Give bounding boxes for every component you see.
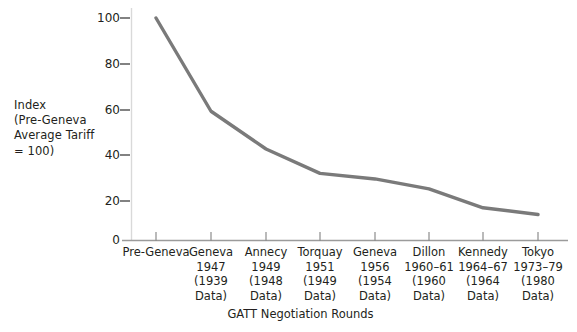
x-axis-title-text: GATT Negotiation Rounds [203, 307, 373, 321]
x-tick-name: Tokyo [502, 245, 574, 260]
x-tick-marks [156, 232, 538, 241]
y-tick-marks [120, 18, 130, 201]
x-tick-data-close: Data) [502, 289, 574, 304]
x-tick-years: 1973–79 [502, 260, 574, 275]
x-tick-label-tokyo-1973-79: Tokyo 1973–79 (1980 Data) [502, 245, 574, 303]
tariff-index-series-line [156, 18, 538, 214]
x-axis-title: GATT Negotiation Rounds [0, 307, 577, 321]
x-tick-data-open: (1980 [502, 274, 574, 289]
tariff-index-line-chart: Index (Pre-Geneva Average Tariff = 100) … [0, 0, 577, 332]
